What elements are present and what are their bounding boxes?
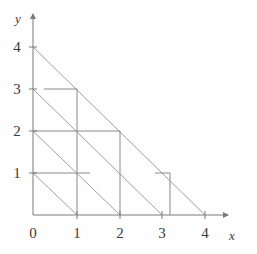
- figure-root: 4 3 2 1 0 1 2 3 4 y x: [0, 0, 257, 254]
- plot-canvas: [0, 0, 257, 254]
- y-tick-label-1: 1: [10, 166, 24, 181]
- x-tick-label-2: 2: [113, 226, 127, 241]
- y-axis-label: y: [15, 12, 21, 25]
- x-tick-label-1: 1: [70, 226, 84, 241]
- diagonal-line-sum-3: [33, 89, 162, 215]
- y-tick-label-4: 4: [10, 40, 24, 55]
- box-outlines-group: [33, 89, 170, 215]
- x-tick-label-3: 3: [155, 226, 169, 241]
- x-tick-label-4: 4: [198, 226, 212, 241]
- box-outline-upper-left: [44, 89, 77, 215]
- y-tick-label-2: 2: [10, 124, 24, 139]
- diagonal-line-sum-1: [33, 173, 77, 215]
- y-tick-label-3: 3: [10, 82, 24, 97]
- x-tick-label-0: 0: [26, 226, 40, 241]
- x-axis-label: x: [229, 229, 235, 242]
